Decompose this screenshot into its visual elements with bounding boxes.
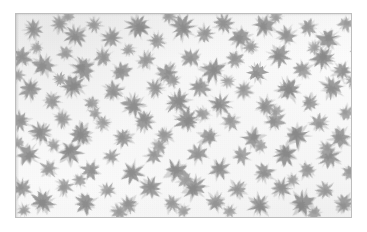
cell-marker [16,172,34,202]
cell-marker [62,22,89,48]
cell-marker [68,185,102,217]
cell-marker [219,46,249,74]
cell-marker [178,47,202,68]
cell-marker [271,72,307,106]
cell-body [348,40,351,60]
cell-marker [50,107,74,131]
cell-marker [246,61,270,85]
cell-marker [296,158,319,182]
cells-group [16,14,351,217]
cell-marker [347,38,351,63]
cell-marker [138,174,165,201]
cell-marker [223,175,253,204]
cell-marker [18,16,46,46]
cell-marker [97,181,117,200]
cell-marker [117,38,141,61]
cell-marker [241,187,275,217]
cell-marker [260,38,297,74]
cell-marker [97,24,125,50]
cell-layer [16,14,351,217]
cell-marker [238,124,268,154]
cell-marker [37,86,69,118]
cell-marker [16,199,34,217]
cell-marker [304,106,336,138]
cell-body [146,27,172,53]
cell-marker [335,101,351,124]
cell-marker [108,123,140,153]
cell-marker [88,42,117,72]
micrograph-panel [15,13,352,218]
cell-marker [56,140,86,169]
cell-scatter-plot [16,14,351,217]
cell-marker [333,192,351,215]
cell-marker [26,36,49,59]
cell-marker [297,90,323,115]
cell-marker [100,76,130,104]
micrograph-plate [0,0,367,232]
cell-halo [347,38,351,63]
cell-marker [132,46,161,76]
cell-marker [81,14,108,38]
cell-marker [234,79,255,101]
